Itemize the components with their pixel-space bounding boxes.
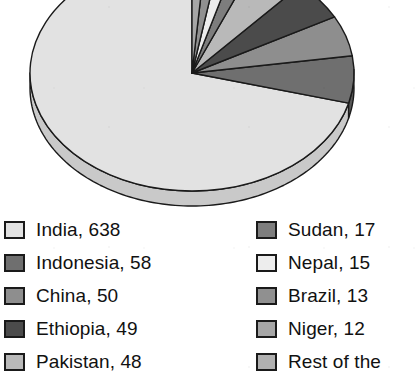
chart-legend: India, 638Indonesia, 58China, 50Ethiopia… xyxy=(0,213,416,388)
legend-column-left: India, 638Indonesia, 58China, 50Ethiopia… xyxy=(4,213,244,388)
legend-item-label: Sudan, 17 xyxy=(288,220,376,239)
legend-swatch xyxy=(4,287,25,305)
legend-swatch xyxy=(256,320,277,338)
legend-item-label: Pakistan, 48 xyxy=(36,352,142,371)
legend-column-right: Sudan, 17Nepal, 15Brazil, 13Niger, 12Res… xyxy=(256,213,416,388)
legend-item: Brazil, 13 xyxy=(256,279,416,312)
legend-swatch xyxy=(4,221,25,239)
legend-item: India, 638 xyxy=(4,213,244,246)
legend-item: Rest of the xyxy=(256,345,416,378)
legend-item-label: Brazil, 13 xyxy=(288,286,368,305)
legend-item-label: Nepal, 15 xyxy=(288,253,370,272)
legend-item-label: India, 638 xyxy=(36,220,120,239)
legend-item: Nepal, 15 xyxy=(256,246,416,279)
legend-item: Ethiopia, 49 xyxy=(4,312,244,345)
legend-swatch xyxy=(256,353,277,371)
legend-swatch xyxy=(4,353,25,371)
legend-item: China, 50 xyxy=(4,279,244,312)
legend-item: Sudan, 17 xyxy=(256,213,416,246)
pie-chart xyxy=(0,0,416,212)
legend-swatch xyxy=(4,254,25,272)
legend-swatch xyxy=(4,320,25,338)
legend-swatch xyxy=(256,287,277,305)
legend-item: Pakistan, 48 xyxy=(4,345,244,378)
legend-item: Indonesia, 58 xyxy=(4,246,244,279)
legend-item: Niger, 12 xyxy=(256,312,416,345)
legend-item-label: Niger, 12 xyxy=(288,319,365,338)
pie-chart-svg xyxy=(0,0,416,212)
legend-swatch xyxy=(256,254,277,272)
legend-item-label: Indonesia, 58 xyxy=(36,253,151,272)
legend-item-label: China, 50 xyxy=(36,286,118,305)
legend-item-label: Rest of the xyxy=(288,352,381,371)
legend-item-label: Ethiopia, 49 xyxy=(36,319,138,338)
legend-swatch xyxy=(256,221,277,239)
